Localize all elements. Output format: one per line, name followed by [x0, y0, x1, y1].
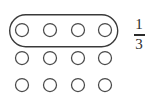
counter-r3c2 — [44, 79, 57, 92]
counter-r3c3 — [72, 79, 85, 92]
fraction-numerator: 1 — [135, 17, 143, 33]
counter-r2c3 — [72, 52, 85, 65]
counter-r3c1 — [16, 79, 29, 92]
group-ring-layer — [10, 15, 118, 47]
counter-r1c2 — [44, 24, 57, 37]
fraction-label: 1 3 — [128, 16, 150, 54]
counter-r2c4 — [99, 52, 112, 65]
group-ring-row-1 — [10, 15, 118, 47]
counter-r3c4 — [99, 79, 112, 92]
counter-row-2 — [16, 52, 112, 65]
counter-r1c4 — [99, 24, 112, 37]
counter-r2c1 — [16, 52, 29, 65]
counter-r1c1 — [16, 24, 29, 37]
fraction-denominator: 3 — [135, 37, 143, 53]
counter-row-3 — [16, 79, 112, 92]
fraction-array-figure: 1 3 — [0, 0, 156, 111]
counter-r2c2 — [44, 52, 57, 65]
counter-r1c3 — [72, 24, 85, 37]
counter-row-1 — [16, 24, 112, 37]
